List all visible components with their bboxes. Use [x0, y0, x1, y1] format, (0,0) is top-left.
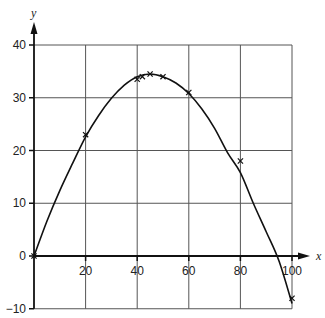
- x-axis-arrow-icon: [298, 253, 310, 260]
- x-tick-label: 60: [182, 264, 196, 278]
- x-tick-label: 40: [131, 264, 145, 278]
- y-tick-label: −10: [6, 302, 27, 316]
- y-tick-label: 30: [13, 91, 27, 105]
- tick-labels: −1001020304020406080100: [6, 38, 303, 316]
- x-axis-label: x: [315, 249, 322, 263]
- fitted-curve: [34, 74, 292, 303]
- x-tick-label: 100: [282, 264, 302, 278]
- y-axis-label: y: [30, 6, 37, 20]
- trajectory-chart: −1001020304020406080100 x y: [0, 0, 325, 318]
- x-tick-label: 80: [234, 264, 248, 278]
- y-axis-arrow-icon: [31, 22, 38, 34]
- y-tick-label: 40: [13, 38, 27, 52]
- y-tick-label: 10: [13, 196, 27, 210]
- grid-lines: [34, 45, 292, 309]
- data-point-markers: [31, 71, 294, 300]
- y-tick-label: 20: [13, 144, 27, 158]
- x-tick-label: 20: [79, 264, 93, 278]
- y-tick-label: 0: [19, 249, 26, 263]
